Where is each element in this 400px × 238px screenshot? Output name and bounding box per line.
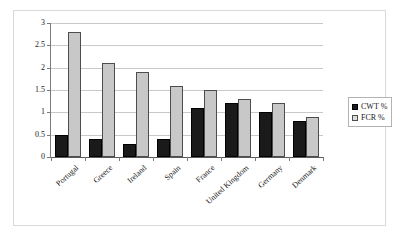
value-axis-tick: [47, 112, 51, 113]
bar: [68, 32, 81, 157]
bar: [157, 139, 170, 157]
bar: [123, 144, 136, 157]
gridline: [51, 45, 323, 46]
gridline: [51, 23, 323, 24]
category-axis-label: Portugal: [55, 164, 80, 188]
plot-area: 00.511.522.53 PortugalGreeceIrelandSpain…: [51, 23, 323, 157]
value-axis-tick: [47, 68, 51, 69]
value-axis-label: 0.5: [35, 131, 45, 139]
value-axis-label: 3: [41, 19, 45, 27]
category-axis-label: Greece: [93, 164, 115, 185]
legend-swatch-fcr: [352, 115, 358, 121]
category-axis-tick: [153, 157, 154, 161]
bar: [259, 112, 272, 157]
value-axis-label: 2: [41, 64, 45, 72]
bar: [136, 72, 149, 157]
category-axis-tick: [51, 157, 52, 161]
bar: [204, 90, 217, 157]
category-axis-tick: [255, 157, 256, 161]
gridline: [51, 68, 323, 69]
category-axis-label: Denmark: [291, 164, 318, 190]
legend-item-cwt: CWT %: [352, 101, 387, 112]
legend-swatch-cwt: [352, 104, 358, 110]
bar: [170, 86, 183, 157]
value-axis-tick: [47, 45, 51, 46]
gridline: [51, 90, 323, 91]
value-axis-label: 1.5: [35, 86, 45, 94]
bar: [191, 108, 204, 157]
value-axis-label: 1: [41, 108, 45, 116]
category-axis-tick: [187, 157, 188, 161]
category-axis-tick: [85, 157, 86, 161]
bar: [272, 103, 285, 157]
bar: [238, 99, 251, 157]
bar: [306, 117, 319, 157]
legend-item-fcr: FCR %: [352, 112, 387, 123]
bar: [55, 135, 68, 157]
bar: [225, 103, 238, 157]
legend-label-cwt: CWT %: [361, 103, 387, 111]
category-axis-label: Ireland: [127, 164, 149, 185]
category-axis-tick: [221, 157, 222, 161]
chart-frame: 00.511.522.53 PortugalGreeceIrelandSpain…: [13, 10, 386, 226]
bar: [89, 139, 102, 157]
category-axis-label: Spain: [164, 164, 183, 182]
chart-legend: CWT % FCR %: [348, 97, 392, 127]
category-axis-tick: [323, 157, 324, 161]
category-axis-tick: [289, 157, 290, 161]
legend-label-fcr: FCR %: [361, 114, 385, 122]
category-axis-label: Germany: [257, 164, 284, 190]
category-axis-label: France: [195, 164, 217, 185]
bar: [293, 121, 306, 157]
bar: [102, 63, 115, 157]
value-axis-label: 2.5: [35, 41, 45, 49]
value-axis-tick: [47, 90, 51, 91]
value-axis-tick: [47, 23, 51, 24]
category-axis-tick: [119, 157, 120, 161]
value-axis-tick: [47, 135, 51, 136]
value-axis-label: 0: [41, 153, 45, 161]
